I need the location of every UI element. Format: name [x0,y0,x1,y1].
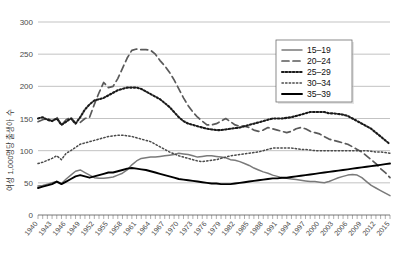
y-tick-label: 200 [20,82,34,91]
age-specific-fertility-rate-line-chart: 050100150200250300 194019431946194919521… [0,0,403,262]
y-tick-label: 0 [29,211,34,220]
y-tick-label: 300 [20,18,34,27]
chart-container: 050100150200250300 194019431946194919521… [0,0,403,262]
legend-label-30-34: 30–34 [307,78,331,88]
legend-label-15-19: 15–19 [307,45,331,55]
y-tick-label: 100 [20,147,34,156]
y-tick-label: 250 [20,50,34,59]
legend-label-35-39: 35–39 [307,89,331,99]
y-tick-label: 150 [20,115,34,124]
y-tick-label: 50 [24,179,33,188]
chart-legend: 15–1920–2425–2930–3435–39 [276,40,354,104]
legend-label-20-24: 20–24 [307,56,331,66]
y-axis-title: 여성 1,000명당 출생아 수 [5,109,15,190]
legend-label-25-29: 25–29 [307,67,331,77]
